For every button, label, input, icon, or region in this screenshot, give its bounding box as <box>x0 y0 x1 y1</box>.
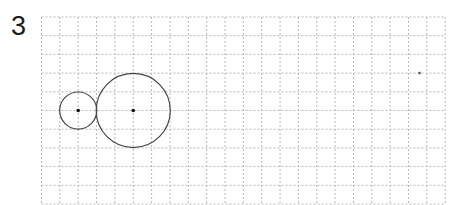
figure-shapes <box>60 72 421 148</box>
lone-point <box>418 72 421 75</box>
grid-diagram <box>0 0 454 205</box>
small-circle-center <box>76 109 80 113</box>
large-circle-center <box>131 109 135 113</box>
grid-lines <box>42 17 446 205</box>
